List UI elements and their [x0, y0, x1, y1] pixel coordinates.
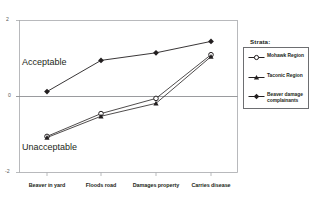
x-tick-label-floods-road: Floods road: [72, 182, 130, 188]
legend-box: Mohawk Region Taconic Region Beaver dama…: [243, 47, 309, 109]
acceptable-annotation: Acceptable: [22, 57, 67, 67]
x-tick-label-damages-property: Damages property: [123, 182, 189, 188]
legend-label-taconic-region: Taconic Region: [267, 73, 303, 79]
unacceptable-annotation: Unacceptable: [22, 142, 77, 152]
y-tick-label-top: 2: [6, 16, 9, 22]
legend-label-mohawk-region: Mohawk Region: [267, 53, 304, 59]
filled-triangle-icon: [248, 74, 265, 81]
legend-title: Strata:: [250, 38, 270, 45]
y-tick-label-middle: 0: [8, 92, 11, 98]
legend-entry-taconic-region[interactable]: Taconic Region: [248, 73, 303, 81]
data-point: [154, 96, 159, 101]
legend-label-beaver-damage-complainants: Beaver damage complainants: [267, 92, 308, 104]
open-circle-icon: [248, 54, 265, 61]
beaver-attitude-line-chart: 2 0 -2 Beaver in yard Floods road Damage…: [0, 0, 313, 204]
legend-entry-mohawk-region[interactable]: Mohawk Region: [248, 53, 304, 61]
filled-diamond-icon: [248, 93, 265, 100]
y-axis-ticks: [16, 21, 20, 173]
legend-entry-beaver-damage-complainants[interactable]: Beaver damage complainants: [248, 92, 308, 104]
y-tick-label-bottom: -2: [5, 168, 10, 174]
x-axis-ticks: [47, 173, 211, 177]
x-tick-label-beaver-in-yard: Beaver in yard: [15, 182, 79, 188]
x-tick-label-carries-disease: Carries disease: [182, 182, 240, 188]
